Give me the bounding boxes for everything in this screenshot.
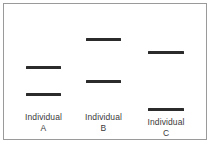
band-c-1 (148, 51, 184, 54)
lane-label-a: Individual A (13, 112, 74, 134)
gel-lanes-container: Individual A Individual B Individual C (0, 0, 211, 144)
band-b-2 (86, 80, 121, 83)
lane-label-a-line2: A (13, 123, 74, 134)
band-a-1 (26, 66, 61, 69)
lane-label-b-line2: B (73, 123, 134, 134)
lane-label-c-line2: C (135, 128, 197, 139)
lane-label-b-line1: Individual (85, 112, 122, 122)
lane-label-c: Individual C (135, 117, 197, 139)
band-c-2 (148, 108, 184, 111)
gel-electrophoresis-figure: Individual A Individual B Individual C (0, 0, 211, 144)
lane-label-b: Individual B (73, 112, 134, 134)
band-b-1 (86, 38, 121, 41)
lane-label-c-line1: Individual (148, 117, 185, 127)
lane-label-a-line1: Individual (25, 112, 62, 122)
band-a-2 (26, 93, 61, 96)
